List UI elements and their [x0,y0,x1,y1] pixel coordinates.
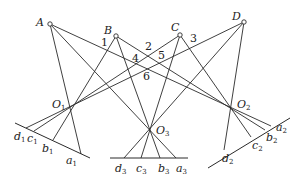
label-O2-main: O [237,98,246,111]
label-d3-main: d [115,162,122,175]
point-A [48,22,52,26]
label-D: D [232,11,241,22]
label-b2-main: b [266,131,273,144]
label-d1-main: d [14,130,21,143]
label-b1: b1 [42,143,54,156]
label-a2-sub: 2 [283,127,287,135]
label-c2-sub: 2 [258,145,262,153]
label-C: C [171,22,179,33]
label-c3: c3 [136,163,147,176]
intersection-4: 4 [132,53,139,64]
label-b1-main: b [42,142,49,155]
label-a3: a3 [176,163,187,176]
intersection-3: 3 [190,33,197,44]
label-A: A [36,17,44,28]
label-b3-main: b [158,162,165,175]
label-O3: O3 [156,125,170,138]
label-d2-sub: 2 [229,158,233,166]
intersection-2: 2 [145,41,152,52]
label-O1: O1 [52,99,66,112]
intersection-6: 6 [143,71,150,82]
label-O2-sub: 2 [246,104,250,112]
projection-diagram: A B C D 1 2 3 4 5 6 O1 O2 O3 d1 c1 b1 a1… [0,0,302,183]
label-O1-main: O [52,98,61,111]
point-B [114,34,118,38]
label-O3-main: O [156,124,165,137]
label-c3-sub: 3 [142,168,146,176]
intersection-1: 1 [101,37,108,48]
label-b3-sub: 3 [165,168,169,176]
label-a2: a2 [276,122,287,135]
point-D [242,20,246,24]
label-c1: c1 [27,133,38,146]
ray-D-O1 [26,22,244,128]
ray-B-O1 [53,36,116,140]
label-d1: d1 [14,131,26,144]
label-b2-sub: 2 [273,137,277,145]
label-d2-main: d [222,152,229,165]
label-d2: d2 [222,153,234,166]
label-O2: O2 [237,99,251,112]
label-d1-sub: 1 [21,136,25,144]
label-d3: d3 [115,163,127,176]
label-c1-sub: 1 [33,138,37,146]
label-a3-sub: 3 [183,168,187,176]
label-c2: c2 [252,140,263,153]
label-a1: a1 [66,155,77,168]
label-b3: b3 [158,163,170,176]
label-O3-sub: 3 [165,130,169,138]
ray-A-O1 [50,24,81,154]
intersection-5: 5 [158,50,165,61]
label-d3-sub: 3 [122,168,126,176]
label-b1-sub: 1 [49,148,53,156]
label-B: B [104,25,112,36]
ray-C-O2 [180,35,251,137]
label-O1-sub: 1 [61,104,65,112]
label-a1-sub: 1 [73,160,77,168]
